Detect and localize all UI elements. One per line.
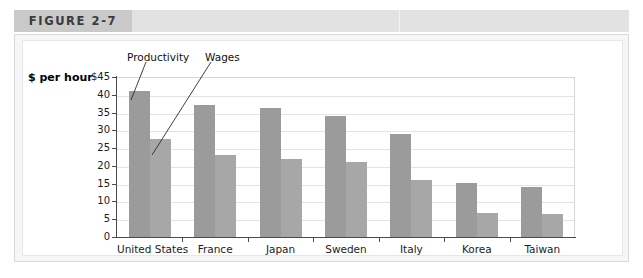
y-tick-mark [112,95,117,96]
y-tick-mark [112,219,117,220]
bar-wages-france [215,155,236,237]
gridline [117,114,574,115]
bar-productivity-korea [456,183,477,237]
y-tick-label: 35 [70,108,110,118]
bar-wages-united-states [150,139,171,237]
x-axis-label-france: France [182,243,247,255]
x-tick-mark [182,238,183,242]
bar-wages-japan [281,159,302,237]
x-axis-label-japan: Japan [248,243,313,255]
y-tick-mark [112,237,117,238]
figure-page: FIGURE 2-7 $ per hour 0510152025303540$4… [0,0,643,278]
bar-wages-korea [477,213,498,237]
bar-productivity-sweden [325,116,346,237]
y-tick-label: $45 [70,72,110,82]
x-axis-label-italy: Italy [379,243,444,255]
x-tick-mark [510,238,511,242]
x-tick-mark [313,238,314,242]
y-tick-label: 20 [70,161,110,171]
y-tick-mark [112,201,117,202]
figure-number-label: FIGURE 2-7 [29,14,117,28]
bar-wages-sweden [346,162,367,237]
y-tick-mark [112,77,117,78]
callout-wages-label: Wages [205,51,240,63]
x-tick-mark [379,238,380,242]
y-tick-label: 15 [70,179,110,189]
figure-number-tab: FIGURE 2-7 [14,10,132,32]
y-tick-label: 0 [70,232,110,242]
y-tick-label: 10 [70,196,110,206]
header-band-seam [399,10,400,32]
bar-productivity-taiwan [521,187,542,237]
y-tick-mark [112,166,117,167]
callout-productivity-label: Productivity [127,51,189,63]
bar-productivity-italy [390,134,411,237]
x-tick-mark [444,238,445,242]
bar-wages-taiwan [542,214,563,237]
y-tick-label: 30 [70,125,110,135]
y-tick-mark [112,113,117,114]
x-axis-label-taiwan: Taiwan [510,243,575,255]
x-axis-label-united-states: United States [117,243,182,255]
gridline [117,96,574,97]
y-tick-mark [112,184,117,185]
bar-wages-italy [411,180,432,237]
x-tick-mark [248,238,249,242]
bar-productivity-france [194,105,215,237]
y-tick-label: 40 [70,90,110,100]
y-tick-label: 25 [70,143,110,153]
y-tick-mark [112,130,117,131]
bar-productivity-united-states [129,91,150,237]
x-axis-label-korea: Korea [444,243,509,255]
bar-productivity-japan [260,108,281,237]
y-tick-mark [112,148,117,149]
y-tick-label: 5 [70,214,110,224]
x-axis-label-sweden: Sweden [313,243,378,255]
x-axis-line [116,237,576,238]
y-axis-line [116,76,117,238]
